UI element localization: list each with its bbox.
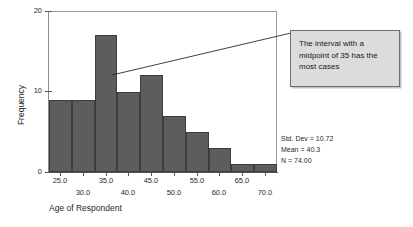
x-tick-label-35: 35.0 [99, 176, 114, 185]
x-tick-label-70: 70.0 [258, 188, 273, 197]
y-axis-title: Frequency [16, 65, 26, 145]
bar-bin-25 [49, 100, 72, 172]
callout-text: The interval with a midpoint of 35 has t… [299, 38, 394, 73]
x-axis-title: Age of Respondent [49, 203, 122, 213]
bar-bin-40 [117, 92, 140, 173]
bar-series [49, 11, 277, 172]
stat-n: N = 74.00 [281, 155, 333, 166]
y-tick-label-20: 20 [34, 7, 42, 15]
stat-mean: Mean = 40.3 [281, 144, 333, 155]
x-tick-40 [128, 172, 129, 176]
bar-bin-65 [231, 164, 254, 172]
y-tick-label-0: 0 [38, 168, 42, 176]
y-tick-label-10: 10 [34, 87, 42, 95]
x-tick-label-30: 30.0 [76, 188, 91, 197]
bar-bin-55 [186, 132, 209, 172]
y-tick-0 [45, 172, 52, 173]
callout-box: The interval with a midpoint of 35 has t… [290, 30, 400, 87]
x-tick-label-65: 65.0 [235, 176, 250, 185]
bar-bin-45 [140, 75, 163, 172]
x-tick-label-55: 55.0 [190, 176, 205, 185]
statistics-block: Std. Dev = 10.72 Mean = 40.3 N = 74.00 [281, 133, 333, 166]
x-tick-label-50: 50.0 [167, 188, 182, 197]
x-tick-60 [219, 172, 220, 176]
x-tick-label-40: 40.0 [121, 188, 136, 197]
x-tick-70 [265, 172, 266, 176]
stat-std-dev: Std. Dev = 10.72 [281, 133, 333, 144]
x-tick-label-45: 45.0 [144, 176, 159, 185]
bar-bin-30 [72, 100, 95, 172]
x-tick-50 [174, 172, 175, 176]
x-tick-label-60: 60.0 [212, 188, 227, 197]
bar-bin-60 [209, 148, 232, 172]
bar-bin-70 [254, 164, 277, 172]
bar-bin-35 [95, 35, 118, 172]
bar-bin-50 [163, 116, 186, 172]
x-tick-30 [83, 172, 84, 176]
histogram-figure: 0 10 20 Frequency 25.0 30.0 35.0 40.0 45… [0, 0, 413, 227]
x-tick-label-25: 25.0 [53, 176, 68, 185]
